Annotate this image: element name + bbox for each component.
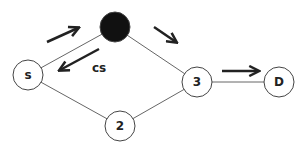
node-circle <box>100 12 130 42</box>
arrow-s-to-node1-icon <box>47 28 78 42</box>
node-2: 2 <box>105 111 135 141</box>
diagram-canvas: s3D2 cs <box>0 0 306 148</box>
node-1 <box>100 12 130 42</box>
node-3: 3 <box>182 67 212 97</box>
node-label: s <box>24 68 31 82</box>
node-D: D <box>264 67 294 97</box>
edges <box>28 27 279 126</box>
nodes: s3D2 <box>13 12 294 141</box>
node-label: 2 <box>116 119 124 133</box>
arrows <box>47 27 258 71</box>
network-diagram: s3D2 cs <box>0 0 306 148</box>
edge-S-2 <box>28 75 120 126</box>
node-label: 3 <box>193 75 201 89</box>
node-label: D <box>274 75 284 89</box>
cs-label: cs <box>92 61 106 75</box>
arrow-node1-to-3-icon <box>154 27 176 42</box>
node-S: s <box>13 60 43 90</box>
